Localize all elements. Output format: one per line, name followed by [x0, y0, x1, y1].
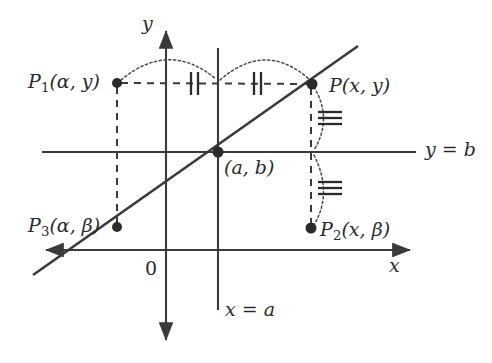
dashed-segment-p1-to-p [121, 83, 309, 84]
label-point-p: P(x, y) [329, 76, 390, 95]
arc-xa-to-p [220, 60, 310, 80]
label-p-args: (x, y) [342, 74, 390, 96]
label-point-a-b: (a, b) [224, 158, 274, 177]
label-line-y-equals-b: y = b [425, 140, 476, 159]
arc-yb-to-p2 [314, 155, 324, 225]
label-p3-base: P [28, 214, 41, 236]
dot-p [307, 79, 318, 90]
label-p-base: P [329, 74, 342, 96]
label-y-axis: y [142, 14, 153, 33]
arc-p1-to-xa [121, 60, 216, 80]
math-diagram-figure: P1(α, y) P(x, y) P3(α, β) P2(x, β) (a, b… [0, 0, 492, 363]
tick-marks-vertical-lower [318, 182, 342, 194]
label-x-axis: x [389, 256, 400, 275]
tick-marks-horizontal-left [191, 72, 198, 95]
label-point-p3: P3(α, β) [28, 216, 100, 238]
label-p3-args: (α, β) [49, 214, 100, 236]
label-point-p1: P1(α, y) [28, 72, 100, 94]
dot-p3 [112, 222, 122, 232]
label-line-x-equals-a: x = a [225, 300, 275, 319]
dot-p2 [306, 223, 317, 234]
dot-ab [213, 147, 224, 158]
dot-p1 [112, 78, 122, 88]
label-p1-args: (α, y) [49, 70, 99, 92]
label-point-p2: P2(x, β) [320, 220, 390, 242]
label-p2-args: (x, β) [341, 218, 390, 240]
tick-marks-vertical-upper [318, 112, 342, 124]
label-origin: 0 [145, 259, 157, 278]
label-p2-base: P [320, 218, 333, 240]
label-p1-base: P [28, 70, 41, 92]
